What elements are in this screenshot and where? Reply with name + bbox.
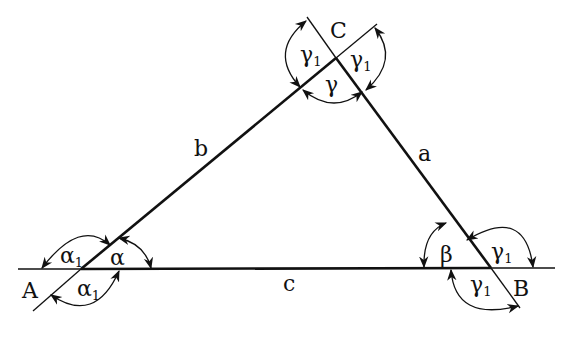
angle-label-gamma1-upper-right: γ1 [491, 239, 512, 266]
side-label-c: c [283, 271, 295, 296]
subscript: 1 [313, 54, 321, 69]
angle-label-gamma1-right: γ1 [350, 47, 371, 74]
angle-label-alpha1-upper: α1 [60, 243, 83, 270]
vertex-label-c: C [330, 18, 347, 43]
subscript: 1 [504, 251, 512, 266]
symbol: γ [350, 47, 363, 72]
angle-label-gamma1-lower-left: γ1 [470, 272, 491, 299]
side-a [336, 58, 491, 268]
subscript: 1 [363, 59, 371, 74]
angle-label-gamma: γ [325, 72, 338, 97]
side-c [81, 268, 491, 269]
angle-label-gamma1-left: γ1 [300, 42, 321, 69]
angle-label-alpha1-lower: α1 [77, 276, 100, 303]
vertex-label-b: B [513, 276, 529, 301]
subscript: 1 [75, 255, 83, 270]
angle-label-alpha: α [110, 245, 125, 270]
triangle-diagram: A B C a b c α β γ α1 α1 γ1 γ1 γ1 γ1 [0, 0, 566, 337]
side-b [81, 58, 336, 269]
subscript: 1 [483, 284, 491, 299]
angle-label-beta: β [440, 242, 453, 267]
symbol: γ [470, 272, 483, 297]
symbol: α [77, 276, 92, 301]
side-label-b: b [194, 136, 208, 161]
symbol: γ [491, 239, 504, 264]
vertex-label-a: A [21, 278, 39, 303]
diagram-canvas: A B C a b c α β γ α1 α1 γ1 γ1 γ1 γ1 [0, 0, 566, 337]
symbol: γ [300, 42, 313, 67]
symbol: α [60, 243, 75, 268]
side-label-a: a [418, 141, 431, 166]
subscript: 1 [92, 288, 100, 303]
